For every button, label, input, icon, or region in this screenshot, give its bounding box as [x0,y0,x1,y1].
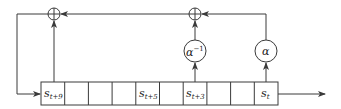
cell-label-s-t: st [261,87,270,101]
lfsr-diagram: st+9 st+5 st+3 st α−1 α [0,0,341,109]
cell-label-s-t3: st+3 [186,87,205,101]
alpha-inverse-label: α−1 [186,45,204,59]
xor-left-icon [48,8,60,20]
alpha-label: α [262,45,270,58]
cell-label-s-t5: st+5 [139,87,158,101]
cell-label-s-t9: st+9 [44,87,63,101]
xor-middle-icon [189,8,201,20]
